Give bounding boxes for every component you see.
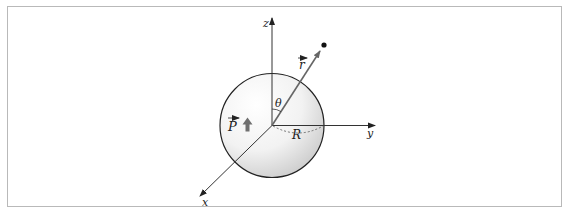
z-axis-label: z [262,17,269,30]
y-axis-label: y [366,127,374,140]
sphere-diagram: z y x r θ R P [0,0,571,216]
polarization-label: P [227,119,237,134]
theta-label: θ [275,97,282,110]
field-point [321,42,326,47]
x-axis-label: x [202,196,209,209]
r-vector-label: r [299,58,306,72]
radius-label: R [291,128,301,142]
